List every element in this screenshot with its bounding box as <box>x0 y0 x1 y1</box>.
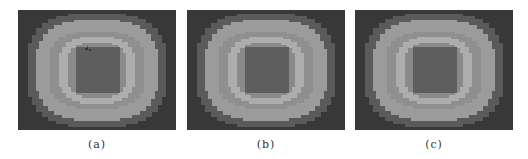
panel-a-image <box>18 10 176 130</box>
panel-c-image <box>355 10 513 130</box>
concentric-regions-image <box>355 10 513 130</box>
center-core-region <box>76 47 120 93</box>
caption-a: (a) <box>67 138 127 151</box>
concentric-regions-image <box>18 10 176 130</box>
caption-b: (b) <box>236 138 296 151</box>
center-core-region <box>245 47 289 93</box>
panel-b-image <box>187 10 345 130</box>
caption-c: (c) <box>404 138 464 151</box>
center-core-region <box>413 47 457 93</box>
concentric-regions-image <box>187 10 345 130</box>
